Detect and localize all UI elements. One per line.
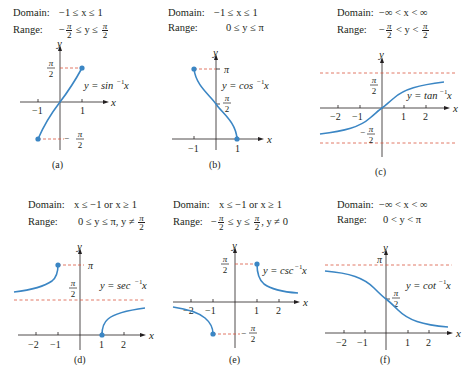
svg-text:y = cot: y = cot bbox=[405, 280, 437, 291]
svg-text:y: y bbox=[382, 241, 388, 253]
svg-text:2: 2 bbox=[426, 337, 431, 348]
svg-text:x: x bbox=[445, 280, 451, 291]
svg-text:π: π bbox=[377, 254, 383, 265]
caption-f: (f) bbox=[380, 354, 390, 365]
svg-text:−1: −1 bbox=[357, 337, 368, 348]
svg-text:1: 1 bbox=[405, 337, 410, 348]
svg-text:x: x bbox=[455, 327, 461, 339]
svg-text:π: π bbox=[394, 288, 399, 298]
svg-text:−2: −2 bbox=[336, 337, 347, 348]
panel-f-graph: x y −2 −1 1 2 π π 2 y = cot −1 x (f) bbox=[0, 0, 468, 365]
